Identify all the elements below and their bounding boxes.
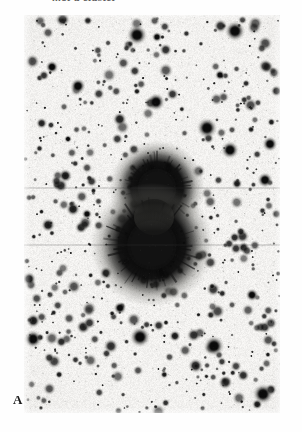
photographic-plate [24, 15, 280, 413]
panel-label-a: A [13, 393, 22, 406]
caption-strip: ...of a cluster [0, 0, 302, 9]
star-field-image [24, 15, 280, 413]
figure-page: ...of a cluster A [0, 0, 302, 432]
figure-caption-text: ...of a cluster [52, 0, 117, 3]
